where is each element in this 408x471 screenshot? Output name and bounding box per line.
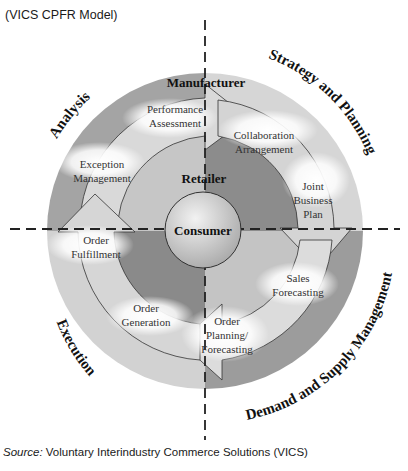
- step-order-planning-3: Forecasting: [201, 343, 253, 355]
- source-label: Source:: [3, 446, 43, 458]
- step-performance-assessment-2: Assessment: [149, 117, 201, 129]
- step-order-fulfillment-1: Order: [83, 234, 109, 246]
- step-order-generation-2: Generation: [122, 316, 171, 328]
- role-manufacturer: Manufacturer: [167, 75, 246, 90]
- step-collaboration-arrangement-2: Arrangement: [235, 143, 293, 155]
- step-sales-forecasting-2: Forecasting: [272, 286, 324, 298]
- step-joint-business-plan-3: Plan: [303, 208, 323, 220]
- cpfr-diagram: Manufacturer Retailer Consumer Performan…: [0, 0, 408, 471]
- source-citation: Source: Voluntary Interindustry Commerce…: [3, 446, 308, 458]
- step-order-planning-2: Planning/: [206, 329, 249, 341]
- step-joint-business-plan-2: Business: [293, 194, 332, 206]
- source-text: Voluntary Interindustry Commerce Solutio…: [43, 446, 308, 458]
- step-sales-forecasting-1: Sales: [286, 272, 309, 284]
- step-performance-assessment-1: Performance: [147, 103, 203, 115]
- step-order-planning-1: Order: [214, 315, 240, 327]
- step-order-generation-1: Order: [133, 302, 159, 314]
- step-order-fulfillment-2: Fulfillment: [71, 248, 121, 260]
- step-exception-management-2: Management: [73, 172, 130, 184]
- step-collaboration-arrangement-1: Collaboration: [234, 129, 295, 141]
- step-exception-management-1: Exception: [80, 158, 125, 170]
- step-joint-business-plan-1: Joint: [302, 180, 323, 192]
- role-retailer: Retailer: [182, 171, 227, 186]
- role-consumer: Consumer: [174, 223, 232, 238]
